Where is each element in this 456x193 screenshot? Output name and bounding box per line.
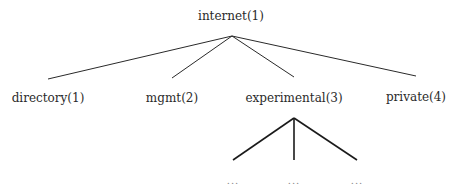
edge-internet-directory: [48, 36, 232, 79]
node-experimental-child-1-ellipsis: ...: [227, 176, 240, 186]
edge-experimental-child-1: [233, 118, 294, 160]
edge-internet-private: [232, 36, 416, 76]
node-mgmt: mgmt(2): [146, 91, 198, 105]
node-experimental-child-2-ellipsis: ...: [288, 176, 301, 186]
node-internet: internet(1): [198, 9, 264, 23]
edge-experimental-child-3: [294, 118, 357, 160]
oid-tree-diagram: internet(1) directory(1) mgmt(2) experim…: [0, 0, 456, 193]
edge-internet-mgmt: [172, 36, 232, 78]
node-experimental-child-3-ellipsis: ...: [351, 176, 364, 186]
node-directory: directory(1): [12, 91, 85, 105]
node-private: private(4): [386, 90, 446, 104]
edge-internet-experimental: [232, 36, 294, 77]
node-experimental: experimental(3): [245, 91, 342, 105]
